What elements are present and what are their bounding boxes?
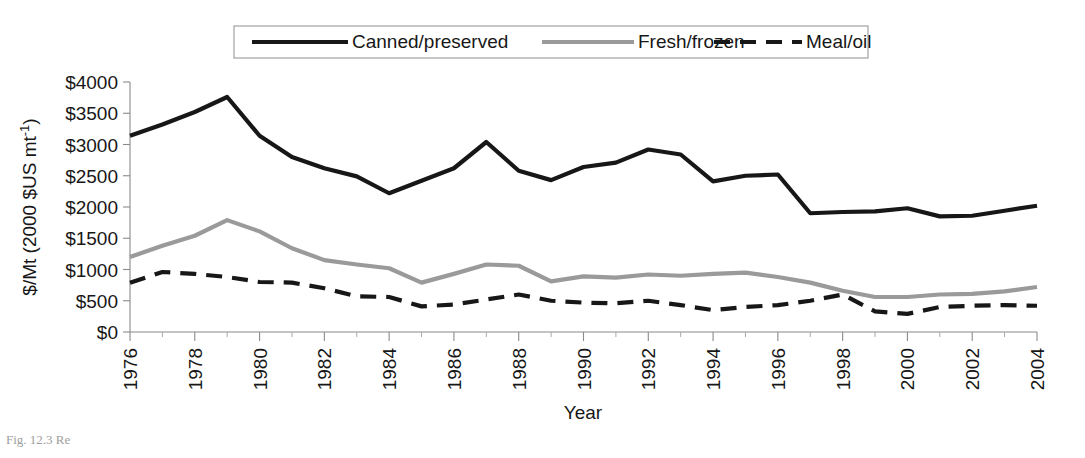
x-axis-tick-label: 1978: [185, 348, 206, 390]
x-axis-tick-label: 1986: [444, 348, 465, 390]
legend-label-0[interactable]: Canned/preserved: [352, 31, 508, 52]
x-axis-tick-label: 1980: [250, 348, 271, 390]
x-axis-tick-label: 1982: [314, 348, 335, 390]
y-axis-tick-label: $0: [97, 322, 118, 343]
y-axis-title-prefix: $/Mt (2000 $US mt: [19, 136, 40, 296]
x-axis-tick-label: 1990: [574, 348, 595, 390]
price-trend-chart: $0$500$1000$1500$2000$2500$3000$3500$400…: [0, 0, 1085, 458]
figure-caption: Fig. 12.3 Re: [6, 432, 306, 452]
y-axis-tick-label: $1000: [65, 260, 118, 281]
y-axis-title-superscript: -1: [17, 125, 32, 137]
legend-label-2[interactable]: Meal/oil: [806, 31, 871, 52]
x-axis-tick-label: 2004: [1027, 348, 1048, 391]
x-axis-tick-label: 1996: [768, 348, 789, 390]
y-axis-tick-label: $2000: [65, 197, 118, 218]
x-axis-tick-label: 1988: [509, 348, 530, 390]
y-axis-tick-label: $3500: [65, 103, 118, 124]
x-axis-tick-label: 2000: [897, 348, 918, 390]
x-axis-tick-label: 1984: [379, 348, 400, 391]
x-axis-tick-label: 2002: [962, 348, 983, 390]
y-axis-tick-label: $4000: [65, 72, 118, 93]
chart-legend[interactable]: Canned/preservedFresh/frozenMeal/oil: [234, 26, 871, 58]
chart-background: [0, 0, 1085, 458]
x-axis-tick-label: 1976: [120, 348, 141, 390]
x-axis-tick-label: 1994: [703, 348, 724, 391]
x-axis-tick-label: 1992: [638, 348, 659, 390]
x-axis-tick-label: 1998: [833, 348, 854, 390]
x-axis-title: Year: [564, 402, 603, 423]
y-axis-tick-label: $2500: [65, 166, 118, 187]
y-axis-tick-label: $500: [76, 291, 118, 312]
y-axis-title: $/Mt (2000 $US mt-1): [17, 118, 40, 295]
y-axis-title-suffix: ): [19, 118, 40, 124]
y-axis-tick-label: $1500: [65, 228, 118, 249]
y-axis-tick-label: $3000: [65, 135, 118, 156]
